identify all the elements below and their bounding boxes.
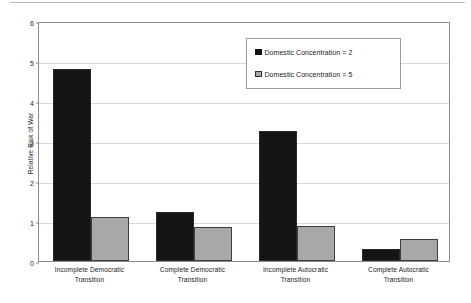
black-square-icon — [255, 49, 262, 56]
legend: Domestic Concentration = 2 Domestic Conc… — [246, 38, 401, 89]
gray-square-icon — [255, 71, 262, 78]
legend-item-label: Domestic Concentration = 2 — [265, 49, 353, 56]
bar — [400, 239, 438, 261]
bar — [156, 212, 194, 261]
legend-item: Domestic Concentration = 5 — [255, 67, 392, 81]
y-axis-tick-label: 6 — [30, 20, 34, 27]
bar — [53, 69, 91, 261]
bar — [297, 226, 335, 261]
bar — [91, 217, 129, 261]
x-axis-category-labels: Incomplete DemocraticTransitionComplete … — [38, 265, 450, 295]
y-axis-tick-mark — [36, 263, 39, 264]
y-axis-tick-label: 0 — [30, 260, 34, 267]
y-axis-tick-label: 1 — [30, 220, 34, 227]
y-axis-tick-label: 5 — [30, 60, 34, 67]
bar — [194, 227, 232, 261]
x-axis-category-label: Complete AutocraticTransition — [347, 265, 450, 284]
x-axis-category-label: Incomplete DemocraticTransition — [38, 265, 141, 284]
x-axis-category-label: Complete DemocraticTransition — [141, 265, 244, 284]
x-axis-category-label: Incomplete AutocraticTransition — [244, 265, 347, 284]
y-axis-tick-label: 2 — [30, 180, 34, 187]
bar-chart-figure: Relative Risk of War 0123456 Incomplete … — [0, 0, 471, 303]
bar — [362, 249, 400, 261]
bar — [259, 131, 297, 261]
legend-item-label: Domestic Concentration = 5 — [265, 71, 353, 78]
legend-item: Domestic Concentration = 2 — [255, 45, 392, 59]
y-axis-tick-label: 3 — [30, 140, 34, 147]
y-axis-tick-label: 4 — [30, 100, 34, 107]
top-divider-rule — [10, 2, 465, 3]
